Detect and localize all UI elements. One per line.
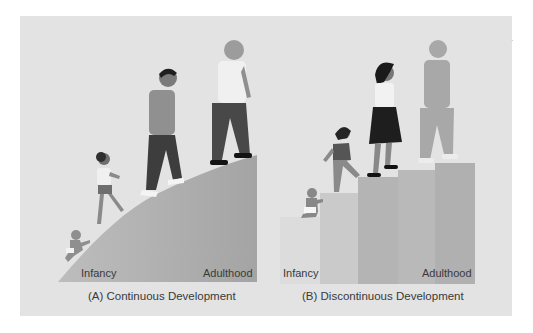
panel-b-caption: (B) Discontinuous Development (302, 290, 464, 302)
step-3 (358, 177, 398, 284)
discontinuous-steps (280, 163, 475, 284)
panel-a-caption: (A) Continuous Development (88, 290, 236, 302)
adolescent-woman-climbing-figure (367, 62, 402, 177)
panel-a-end-label: Adulthood (203, 267, 253, 279)
panel-a-start-label: Infancy (81, 267, 116, 279)
adolescent-walking-figure (140, 69, 184, 197)
step-2 (320, 193, 358, 284)
adult-walking-figure (210, 40, 252, 165)
child-climbing-figure (323, 127, 360, 192)
child-walking-figure (96, 152, 124, 224)
stray-mark: · (511, 36, 514, 45)
panel-b-end-label: Adulthood (422, 267, 472, 279)
development-illustration (0, 0, 533, 333)
adult-walking-figure-b (418, 40, 458, 163)
infant-sitting-figure (301, 188, 323, 218)
panel-b-start-label: Infancy (283, 267, 318, 279)
step-5 (435, 163, 475, 284)
